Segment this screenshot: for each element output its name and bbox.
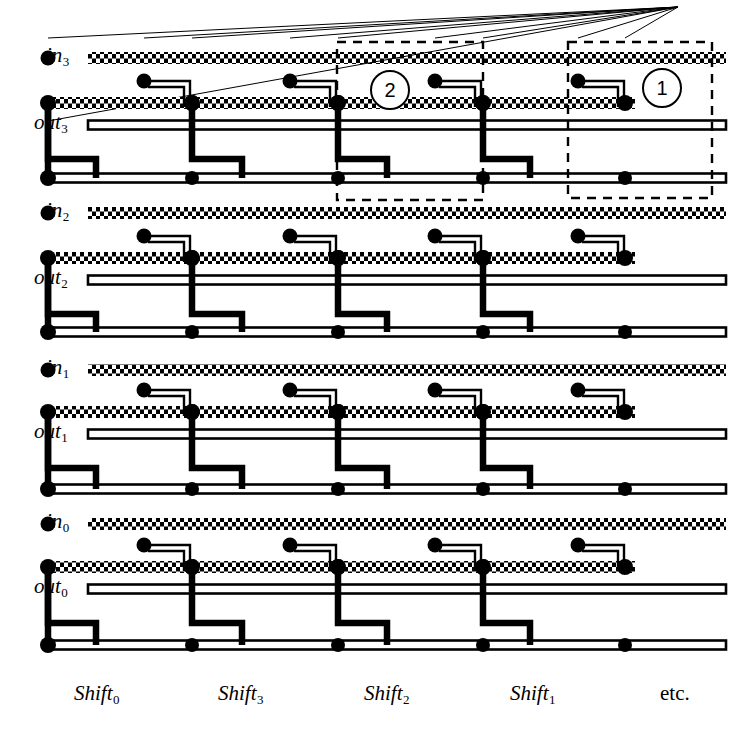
rail-junction-r0-c3 [618,171,632,185]
column-label-shift0: Shift0 [74,683,119,704]
rail-junction-r1-c1 [331,325,345,339]
poly-input-line-3 [88,518,726,530]
contact-gate-r2-c3 [571,383,586,398]
poly-gate-strip-r0-c3 [483,97,635,109]
contact-drain-r2-c3 [617,404,633,420]
stepped-interconnect-r2-c1 [192,412,242,489]
stepped-interconnect-r3-c2 [338,567,387,645]
column-label-shift1: Shift1 [510,683,555,704]
row-label-out3: out3 [34,112,67,133]
contact-gate-r0-c1 [283,74,298,89]
shift-register-layout-figure: in3out3in2out2in1out1in0out0 Shift0Shift… [0,0,755,734]
rail-junction-r3-c0 [185,638,199,652]
contact-drain-r3-c3 [617,559,633,575]
contact-gate-r2-c2 [428,383,443,398]
poly-gate-strip-r2-c2 [338,406,493,418]
rail-junction-r1-c0 [185,325,199,339]
row-label-in2: in2 [46,200,69,221]
poly-input-line-2 [88,364,726,376]
contact-gate-r0-c2 [428,74,443,89]
poly-input-line-1 [88,207,726,219]
poly-gate-strip-r2-c3 [483,406,635,418]
row-label-out1: out1 [34,421,67,442]
contact-gate-r1-c0 [137,229,152,244]
stepped-interconnect-r3-c3 [483,567,530,645]
poly-gate-strip-r1-c2 [338,252,493,264]
poly-gate-strip-r3-c0 [48,561,202,573]
row-label-in0: in0 [46,511,69,532]
rail-junction-r3-c1 [331,638,345,652]
poly-gate-strip-r1-c3 [483,252,635,264]
stepped-interconnect-r2-c3 [483,412,530,489]
rail-junction-r3-c2 [476,638,490,652]
stepped-interconnect-r0-c2 [338,103,387,178]
contact-gate-r1-c2 [428,229,443,244]
row-label-out0: out0 [34,576,67,597]
row-label-in3: in3 [46,45,69,66]
poly-gate-strip-r0-c2 [338,97,493,109]
poly-gate-strip-r0-c0 [48,97,202,109]
rail-junction-r3-c3 [618,638,632,652]
rail-junction-r1-c2 [476,325,490,339]
contact-gate-r3-c1 [283,538,298,553]
stepped-interconnect-r2-c2 [338,412,387,489]
contact-gate-r1-c1 [283,229,298,244]
contact-drain-r1-c3 [617,250,633,266]
contact-drain-r0-c3 [617,95,633,111]
callout-2: 2 [370,70,410,110]
stepped-interconnect-r1-c3 [483,258,530,332]
poly-gate-strip-r3-c3 [483,561,635,573]
contact-gate-r2-c1 [283,383,298,398]
contact-gate-r1-c3 [571,229,586,244]
callout-1: 1 [642,68,682,108]
poly-gate-strip-r1-c0 [48,252,202,264]
metal-output-line-0 [88,121,726,130]
stepped-interconnect-r3-c1 [192,567,242,645]
rail-contact-left-r3 [40,637,56,653]
poly-gate-strip-r2-c1 [192,406,348,418]
contact-gate-r0-c0 [137,74,152,89]
rail-junction-r2-c0 [185,482,199,496]
poly-gate-strip-r0-c1 [192,97,348,109]
poly-gate-strip-r3-c1 [192,561,348,573]
contact-gate-r0-c3 [571,74,586,89]
rail-contact-left-r2 [40,481,56,497]
metal-output-line-1 [88,276,726,285]
column-label-etc: etc. [660,683,690,704]
poly-gate-strip-r2-c0 [48,406,202,418]
stepped-interconnect-r0-c3 [483,103,530,178]
contact-gate-r2-c0 [137,383,152,398]
poly-gate-strip-r3-c2 [338,561,493,573]
contact-gate-r3-c0 [137,538,152,553]
rail-junction-r2-c3 [618,482,632,496]
rail-junction-r2-c2 [476,482,490,496]
layout-canvas [0,0,755,734]
rail-junction-r0-c0 [185,171,199,185]
metal-output-line-2 [88,430,726,439]
column-label-shift3: Shift3 [218,683,263,704]
row-label-in1: in1 [46,357,69,378]
stepped-interconnect-r1-c2 [338,258,387,332]
contact-gate-r3-c2 [428,538,443,553]
poly-gate-strip-r1-c1 [192,252,348,264]
stepped-interconnect-r0-c1 [192,103,242,178]
rail-contact-left-r0 [40,170,56,186]
rail-contact-left-r1 [40,324,56,340]
contact-gate-r3-c3 [571,538,586,553]
stepped-interconnect-r1-c1 [192,258,242,332]
metal-output-line-3 [88,585,726,594]
row-label-out2: out2 [34,267,67,288]
rail-junction-r1-c3 [618,325,632,339]
column-label-shift2: Shift2 [364,683,409,704]
rail-junction-r2-c1 [331,482,345,496]
poly-input-line-0 [88,52,726,64]
